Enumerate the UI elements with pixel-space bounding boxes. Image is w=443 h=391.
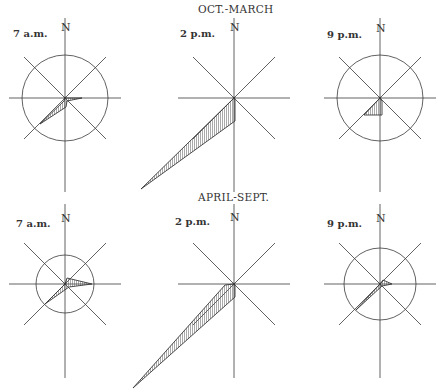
north-label-oct-7am: N [61,21,71,34]
time-label-apr-9pm: 9 p.m. [327,218,362,229]
wind-frequency-shape [364,98,382,115]
north-label-oct-2pm: N [230,21,240,34]
wind-rose-april-sept-9pm [324,204,436,378]
wind-frequency-shape [133,284,235,388]
north-label-apr-7am: N [61,212,71,225]
time-label-oct-2pm: 2 p.m. [180,28,215,39]
wind-frequency-shape [45,278,92,304]
season-title-oct-march: OCT.-MARCH [198,3,273,15]
wind-frequency-shape [356,280,392,310]
north-label-oct-9pm: N [376,22,386,35]
season-title-april-sept: APRIL-SEPT. [198,191,269,203]
time-label-oct-9pm: 9 p.m. [327,29,362,40]
wind-rose-oct-march-9pm [324,18,436,192]
wind-rose-oct-march-7am [9,18,121,192]
time-label-apr-7am: 7 a.m. [16,218,50,229]
time-label-apr-2pm: 2 p.m. [175,216,210,227]
wind-frequency-shape [141,98,235,189]
wind-rose-april-sept-2pm [133,204,290,388]
wind-rose-april-sept-7am [9,204,121,378]
time-label-oct-7am: 7 a.m. [13,28,47,39]
north-label-apr-2pm: N [230,211,240,224]
north-label-apr-9pm: N [376,212,386,225]
wind-rose-oct-march-2pm [141,18,290,192]
